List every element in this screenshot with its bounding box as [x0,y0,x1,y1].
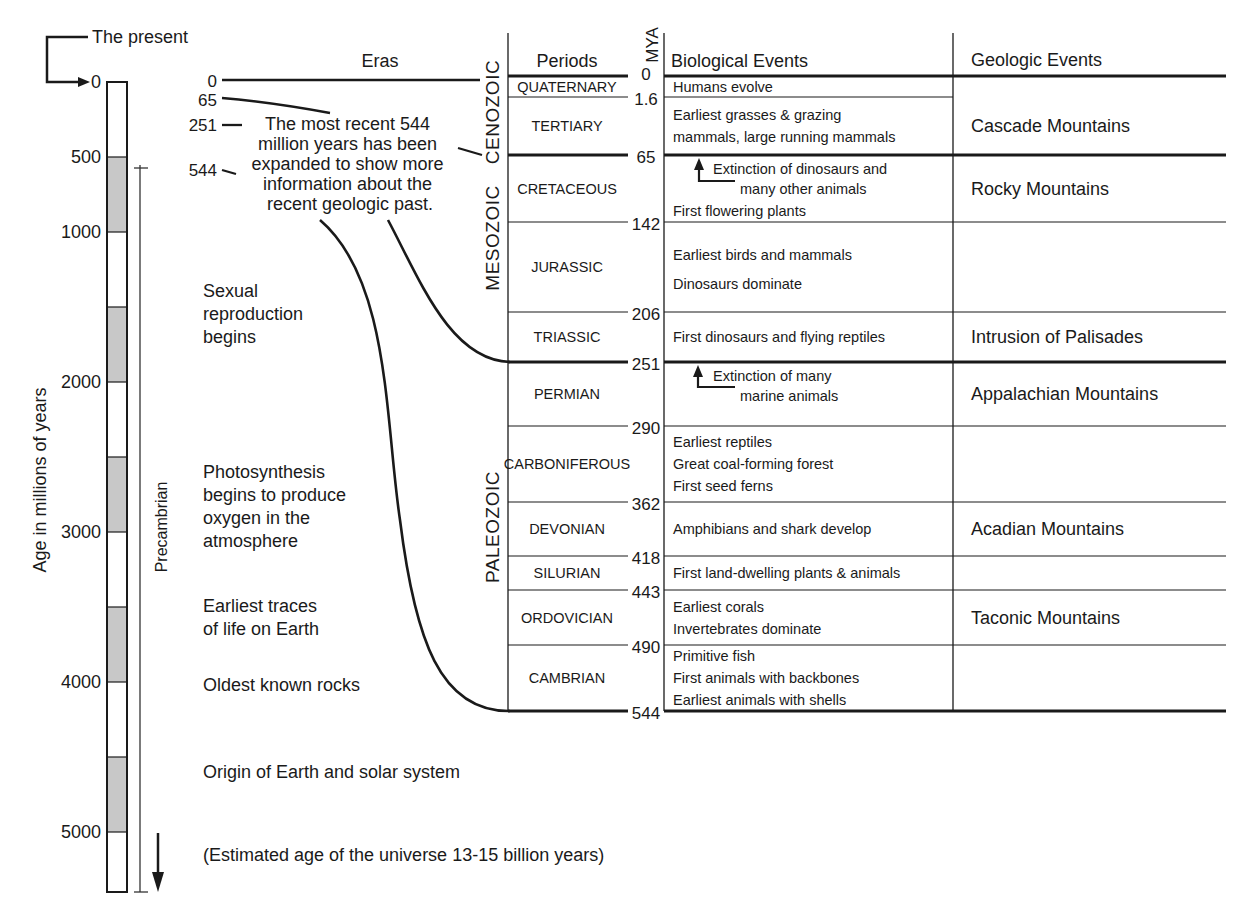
boundary-label: 362 [632,495,660,514]
event-oldest-rocks: Oldest known rocks [203,675,360,695]
era-label-cenozoic: CENOZOIC [482,60,503,164]
period-name-tertiary: TERTIARY [531,118,603,134]
bio-event: Extinction of many [713,368,832,384]
event-earliest-life: Earliest traces of life on Earth [203,596,322,639]
boundary-label: 251 [632,355,660,374]
header-bio: Biological Events [671,51,808,71]
boundary-label: 142 [632,215,660,234]
boundary-label: 0 [641,65,650,84]
scale-band-shaded [107,157,127,232]
expansion-curve-544 [320,220,510,711]
boundary-label: 65 [637,148,656,167]
geologic-event: Rocky Mountains [971,179,1109,199]
scale-tick-label: 2000 [61,372,101,392]
bio-event: First animals with backbones [673,670,859,686]
boundary-label: 418 [632,549,660,568]
bio-event: marine animals [740,388,838,404]
geo-cells: Cascade MountainsRocky MountainsIntrusio… [971,116,1158,628]
header-geo: Geologic Events [971,50,1102,70]
period-name-permian: PERMIAN [534,386,600,402]
scale-band-shaded [107,607,127,682]
bio-event: Earliest animals with shells [673,692,846,708]
scale-ticks: 050010002000300040005000 [61,72,101,842]
period-cells: QUATERNARYHumans evolveTERTIARYEarliest … [504,79,901,709]
bio-event: Dinosaurs dominate [673,276,802,292]
bio-event: Extinction of dinosaurs and [713,161,887,177]
boundary-label: 1.6 [634,90,658,109]
geologic-event: Acadian Mountains [971,519,1124,539]
scale-band-shaded [107,307,127,382]
bio-event: First flowering plants [673,203,806,219]
boundary-label: 206 [632,305,660,324]
bio-event: Earliest reptiles [673,434,772,450]
axis-label: Age in millions of years [30,387,50,572]
scale-tick-label: 5000 [61,822,101,842]
connector-cenozoic [458,148,482,155]
geologic-event: Appalachian Mountains [971,384,1158,404]
period-name-jurassic: JURASSIC [531,259,603,275]
bio-event: First seed ferns [673,478,773,494]
marker-544: 544 [189,161,217,180]
period-name-ordovician: ORDOVICIAN [521,610,613,626]
bio-event: First land-dwelling plants & animals [673,565,900,581]
eras-header: Eras [361,51,398,71]
bio-event: Humans evolve [673,79,773,95]
bio-event: Earliest birds and mammals [673,247,852,263]
boundary-label: 490 [632,638,660,657]
down-arrowhead-icon [152,872,164,892]
bio-event: Invertebrates dominate [673,621,821,637]
extinction-arrowhead-65-icon [694,158,704,170]
precambrian-label: Precambrian [153,482,170,573]
header-mya: MYA [643,27,662,63]
present-arrowhead-icon [78,77,90,87]
scale-tick-label: 3000 [61,522,101,542]
marker-0: 0 [208,72,217,91]
era-label-paleozoic: PALEOZOIC [482,471,503,583]
event-sexual-reproduction: Sexual reproduction begins [203,281,308,347]
bio-event: Earliest grasses & grazing [673,107,841,123]
event-universe-age: (Estimated age of the universe 13-15 bil… [203,845,604,865]
period-name-cambrian: CAMBRIAN [529,670,606,686]
event-origin-earth: Origin of Earth and solar system [203,762,460,782]
connector-65 [222,98,330,113]
geologic-event: Intrusion of Palisades [971,327,1143,347]
bio-event: mammals, large running mammals [673,129,895,145]
boundary-label: 443 [632,583,660,602]
era-label-mesozoic: MESOZOIC [482,185,503,290]
geologic-table: Periods MYA Biological Events Geologic E… [482,27,1226,723]
bio-event: many other animals [740,181,867,197]
period-name-cretaceous: CRETACEOUS [517,181,617,197]
present-label: The present [92,27,188,47]
extinction-arrowhead-251-icon [693,365,703,377]
marker-65: 65 [198,91,217,110]
connector-544 [222,170,236,174]
header-periods: Periods [536,51,597,71]
period-name-silurian: SILURIAN [534,565,601,581]
expansion-note: The most recent 544 million years has be… [251,114,448,214]
geologic-event: Cascade Mountains [971,116,1130,136]
period-name-devonian: DEVONIAN [529,521,605,537]
scale-tick-label: 500 [71,147,101,167]
marker-251: 251 [189,116,217,135]
event-photosynthesis: Photosynthesis begins to produce oxygen … [203,462,351,551]
period-name-quaternary: QUATERNARY [517,79,617,95]
geologic-event: Taconic Mountains [971,608,1120,628]
scale-tick-label: 4000 [61,672,101,692]
period-name-carboniferous: CARBONIFEROUS [504,456,631,472]
boundary-label: 290 [632,419,660,438]
bio-event: Earliest corals [673,599,764,615]
scale-tick-label: 0 [91,72,101,92]
era-labels: CENOZOICMESOZOICPALEOZOIC [482,60,503,583]
geologic-time-diagram: The present 050010002000300040005000 Age… [0,0,1250,922]
bio-event: First dinosaurs and flying reptiles [673,329,885,345]
period-name-triassic: TRIASSIC [534,329,601,345]
bio-event: Amphibians and shark develop [673,521,871,537]
scale-tick-label: 1000 [61,222,101,242]
scale-band-shaded [107,757,127,832]
bio-event: Great coal-forming forest [673,456,833,472]
scale-band-shaded [107,457,127,532]
scale-bar [107,82,127,892]
bio-event: Primitive fish [673,648,755,664]
present-arrow-icon [47,37,88,82]
boundary-label: 544 [632,704,660,723]
